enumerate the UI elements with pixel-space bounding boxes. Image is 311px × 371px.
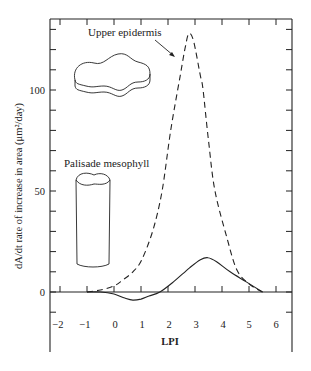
x-tick-label-5: 5 [246, 319, 251, 330]
y-tick-label-100: 100 [29, 85, 45, 96]
x-axis-title: LPI [161, 336, 179, 347]
x-tick-label-1: 1 [139, 319, 144, 330]
y-tick-label-0: 0 [40, 287, 45, 298]
y-axis-title: dA/dt rate of increase in area (μm²/day) [13, 102, 25, 269]
chart: 100 50 0 −2 −1 0 1 2 3 4 5 6 LPI dA/dt r… [0, 0, 311, 371]
x-tick-label-6: 6 [273, 319, 278, 330]
palisade-mesophyll-line [87, 258, 263, 301]
y-axis-ticks [50, 29, 292, 312]
palisade-mesophyll-label: Palisade mesophyll [64, 157, 149, 169]
x-tick-label-4: 4 [220, 319, 226, 330]
x-tick-label-2: 2 [166, 319, 171, 330]
x-tick-label--2: −2 [52, 319, 63, 330]
x-axis-ticks [60, 19, 276, 292]
x-tick-label-0: 0 [112, 319, 117, 330]
upper-epidermis-label: Upper epidermis [88, 26, 162, 38]
y-tick-label-50: 50 [35, 186, 46, 197]
annotation-arrow [155, 40, 175, 57]
x-tick-label--1: −1 [79, 319, 90, 330]
x-tick-label-3: 3 [193, 319, 198, 330]
epidermal-cell-illustration [74, 54, 150, 97]
palisade-cell-illustration [76, 173, 110, 267]
